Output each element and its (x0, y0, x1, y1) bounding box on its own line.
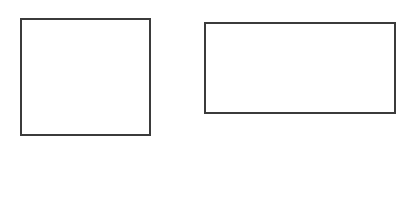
right-wide-rectangle (204, 22, 396, 114)
diagram-canvas (0, 0, 403, 200)
left-square (20, 18, 151, 136)
